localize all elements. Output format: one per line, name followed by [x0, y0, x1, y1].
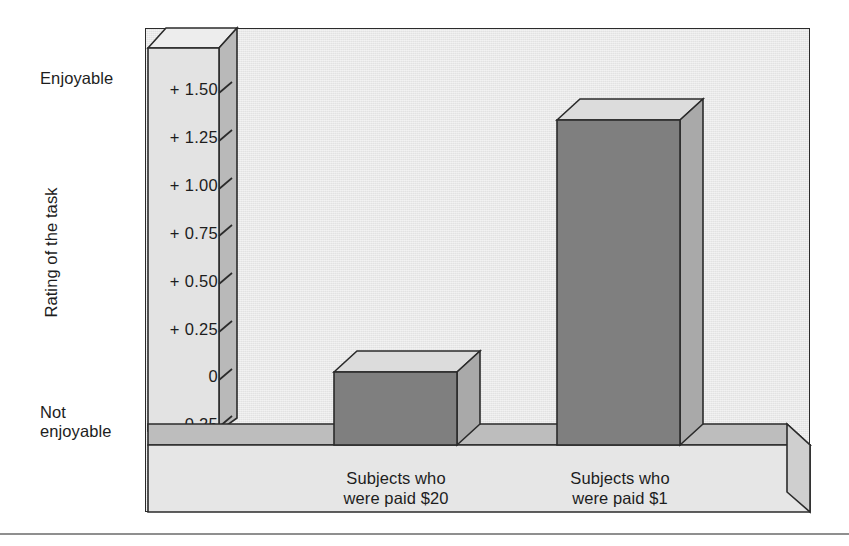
bar-paid-1[interactable] [548, 92, 728, 454]
axis-high-label: Enjoyable [40, 69, 113, 88]
bar-caption-paid-1: Subjects who were paid $1 [505, 468, 735, 508]
bar-paid-20[interactable] [325, 344, 505, 454]
bar-paid-20-top-face [334, 351, 480, 372]
tick-label-0-75: + 0.75 [148, 224, 218, 243]
pillar-side-face [219, 28, 237, 431]
tick-label-0-25: + 0.25 [148, 320, 218, 339]
bar-paid-1-top-face [557, 99, 703, 120]
tick-label-1-50: + 1.50 [148, 80, 218, 99]
figure-canvas: Enjoyable Not enjoyable Rating of the ta… [0, 0, 849, 546]
bar-caption-paid-20: Subjects who were paid $20 [281, 468, 511, 508]
y-axis-title: Rating of the task [42, 148, 61, 358]
bar-paid-20-front-face [334, 372, 457, 445]
tick-label-0-50: + 0.50 [148, 272, 218, 291]
axis-low-label: Not enjoyable [40, 403, 112, 441]
tick-label-1-00: + 1.00 [148, 176, 218, 195]
bar-paid-1-front-face [557, 120, 680, 445]
tick-label-1-25: + 1.25 [148, 128, 218, 147]
page-separator-rule [0, 533, 849, 535]
bar-paid-1-side-face [680, 99, 703, 445]
tick-label-0: 0 [148, 367, 218, 386]
